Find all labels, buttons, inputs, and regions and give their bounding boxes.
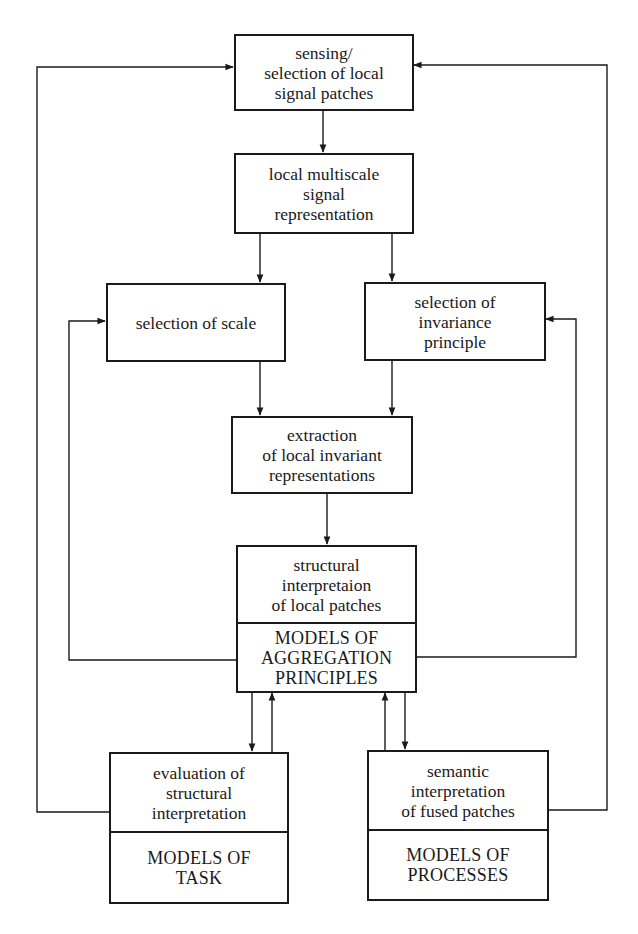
box-semantic-interpretation: semantic interpretation of fused patches… bbox=[367, 750, 549, 901]
box-evaluation-models: MODELS OF TASK bbox=[111, 831, 287, 902]
box-multiscale-label: local multiscale signal representation bbox=[269, 164, 379, 224]
box-selection-of-scale: selection of scale bbox=[106, 283, 286, 362]
box-semantic-models-label: MODELS OF PROCESSES bbox=[406, 845, 509, 885]
box-structural-label: structural interpretaion of local patche… bbox=[272, 555, 382, 615]
box-semantic-models: MODELS OF PROCESSES bbox=[369, 829, 547, 899]
box-sensing: sensing/ selection of local signal patch… bbox=[234, 34, 414, 111]
box-selection-of-invariance: selection of invariance principle bbox=[364, 282, 546, 361]
box-extraction-body: extraction of local invariant representa… bbox=[233, 418, 411, 492]
flowchart-diagram: sensing/ selection of local signal patch… bbox=[0, 0, 638, 934]
box-semantic-top: semantic interpretation of fused patches bbox=[369, 752, 547, 829]
box-evaluation-top: evaluation of structural interpretation bbox=[111, 754, 287, 831]
loop-evaluation-to-sensing bbox=[37, 67, 233, 812]
box-multiscale-representation: local multiscale signal representation bbox=[234, 153, 414, 234]
loop-structural-to-invariance bbox=[416, 319, 576, 657]
box-extraction: extraction of local invariant representa… bbox=[231, 416, 413, 494]
box-sensing-label: sensing/ selection of local signal patch… bbox=[264, 43, 384, 103]
box-semantic-label: semantic interpretation of fused patches bbox=[401, 761, 515, 821]
box-invariance-body: selection of invariance principle bbox=[366, 284, 544, 359]
box-structural-interpretation: structural interpretaion of local patche… bbox=[236, 545, 417, 693]
loop-semantic-to-sensing bbox=[414, 65, 607, 810]
box-structural-top: structural interpretaion of local patche… bbox=[238, 547, 415, 622]
box-evaluation: evaluation of structural interpretation … bbox=[109, 752, 289, 904]
loop-structural-to-scale bbox=[69, 321, 236, 660]
box-multiscale-body: local multiscale signal representation bbox=[236, 155, 412, 232]
box-extraction-label: extraction of local invariant representa… bbox=[262, 425, 382, 485]
box-sensing-body: sensing/ selection of local signal patch… bbox=[236, 36, 412, 109]
box-scale-label: selection of scale bbox=[136, 313, 257, 333]
box-evaluation-models-label: MODELS OF TASK bbox=[147, 848, 250, 888]
box-evaluation-label: evaluation of structural interpretation bbox=[152, 763, 246, 823]
box-structural-models-label: MODELS OF AGGREGATION PRINCIPLES bbox=[261, 628, 392, 688]
box-scale-body: selection of scale bbox=[108, 285, 284, 360]
box-structural-models: MODELS OF AGGREGATION PRINCIPLES bbox=[238, 622, 415, 691]
box-invariance-label: selection of invariance principle bbox=[414, 292, 495, 352]
